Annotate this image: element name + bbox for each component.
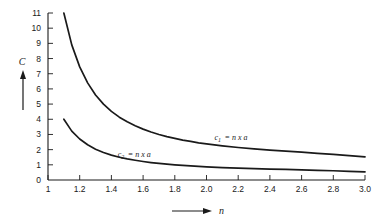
curve-label-expression: = n x a [126, 150, 151, 159]
x-tick-label: 2.6 [296, 184, 308, 194]
y-tick-label: 0 [36, 175, 41, 185]
y-tick-label: 8 [36, 54, 41, 64]
data-curves [64, 13, 365, 172]
x-tick-label: 2.4 [264, 184, 276, 194]
x-axis-arrow-head-icon [203, 208, 212, 214]
y-tick-label: 2 [36, 145, 41, 155]
x-tick-label: 3.0 [359, 184, 371, 194]
x-tick-label: 1.4 [105, 184, 117, 194]
x-axis-label-group: n [172, 205, 224, 216]
x-tick-label: 1.8 [169, 184, 181, 194]
x-tick-label: 1.2 [74, 184, 86, 194]
y-tick-label: 4 [36, 114, 41, 124]
y-axis-label: C [19, 56, 26, 67]
y-tick-label: 6 [36, 84, 41, 94]
y-tick-label: 5 [36, 99, 41, 109]
curve-label-c2: c2 = n x a [118, 150, 151, 160]
x-tick-label: 2.2 [232, 184, 244, 194]
x-axis-tick-marks [48, 175, 365, 180]
y-tick-label: 3 [36, 129, 41, 139]
chart-figure: 01234567891011 11.21.41.61.82.02.22.42.6… [0, 0, 382, 224]
y-axis-tick-marks [48, 13, 53, 165]
chart-plot-area: 01234567891011 11.21.41.61.82.02.22.42.6… [0, 0, 382, 224]
x-tick-label: 2.8 [327, 184, 339, 194]
y-tick-label: 10 [32, 23, 42, 33]
x-tick-label: 2.0 [201, 184, 213, 194]
y-tick-label: 7 [36, 69, 41, 79]
x-tick-label: 1.6 [137, 184, 149, 194]
x-axis-label: n [219, 205, 224, 216]
y-tick-label: 11 [32, 8, 41, 18]
y-tick-label: 1 [36, 160, 41, 170]
y-axis-tick-labels: 01234567891011 [32, 8, 42, 185]
y-tick-label: 9 [36, 38, 41, 48]
y-axis-arrow-head-icon [20, 70, 26, 79]
curve-label-subscript: 1 [218, 137, 221, 143]
curve-label-c1: c1 = n x a [214, 133, 247, 143]
y-axis-label-group: C [19, 56, 26, 110]
x-axis-tick-labels: 11.21.41.61.82.02.22.42.62.83.0 [46, 184, 372, 194]
curve-label-expression: = n x a [222, 133, 247, 142]
x-tick-label: 1 [46, 184, 51, 194]
curve-label-subscript: 2 [121, 154, 124, 160]
